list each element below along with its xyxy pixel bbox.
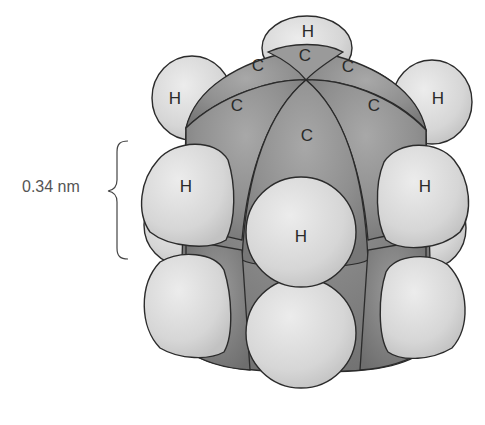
label-left-c: C — [231, 96, 243, 115]
label-front-c: C — [301, 126, 313, 145]
label-top-c: C — [299, 46, 311, 65]
label-right-c: C — [368, 96, 380, 115]
label-far-left-h: H — [169, 89, 181, 108]
label-upper-right-c: C — [342, 57, 354, 76]
hydrogen-atom-lower-left — [144, 254, 231, 357]
dimension-annotation: 0.34 nm — [22, 141, 128, 259]
label-top-h: H — [302, 22, 314, 41]
label-upper-left-c: C — [252, 56, 264, 75]
curly-brace-icon — [108, 141, 128, 259]
label-front-h: H — [295, 227, 307, 246]
label-mid-left-h: H — [180, 177, 192, 196]
hydrogen-atom-lower-right — [380, 257, 465, 359]
label-far-right-h: H — [432, 89, 444, 108]
molecule-diagram: H C C C H H C C C H H H 0.34 nm — [0, 0, 485, 425]
hydrogen-atom-bottom-front — [246, 278, 356, 388]
label-mid-right-h: H — [419, 177, 431, 196]
dimension-label: 0.34 nm — [22, 178, 80, 195]
